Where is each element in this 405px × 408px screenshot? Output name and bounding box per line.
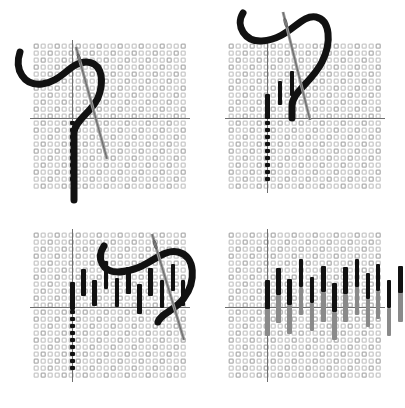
stitch-light xyxy=(321,292,326,321)
stitch-light xyxy=(376,291,381,320)
stitch-dark xyxy=(355,259,360,287)
stitch-light xyxy=(332,312,337,340)
stitch-dark xyxy=(376,264,381,291)
stitch-light xyxy=(398,292,403,321)
stitch-light xyxy=(310,303,315,331)
stitch-dark xyxy=(299,259,304,287)
stitch-light xyxy=(299,287,304,316)
stitch-diagram-figure xyxy=(0,0,405,408)
horizontal-guide-line xyxy=(225,307,385,308)
stitch-dark xyxy=(276,268,281,295)
stitch-dark xyxy=(310,277,315,304)
stitch-light xyxy=(276,295,281,323)
stitch-light xyxy=(343,294,348,323)
stitch-dark xyxy=(265,280,270,309)
stitch-dark xyxy=(343,267,348,294)
stitch-light xyxy=(265,306,270,335)
stitch-dark xyxy=(321,266,326,292)
stitch-light xyxy=(355,286,360,315)
stitch-light xyxy=(366,299,371,327)
stitch-light xyxy=(387,308,392,336)
stitch-dark xyxy=(398,266,403,293)
stitch-dark xyxy=(287,279,292,305)
panel-4 xyxy=(0,0,405,408)
stitch-dark xyxy=(366,273,371,300)
stitch-dark xyxy=(387,280,392,308)
stitch-dark xyxy=(332,283,337,312)
stitch-light xyxy=(287,305,292,334)
